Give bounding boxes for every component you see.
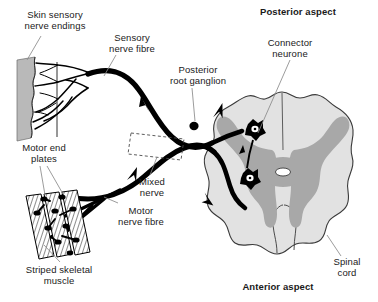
label-sensory-nerve-fibre: Sensory nerve fibre xyxy=(92,32,172,54)
central-canal xyxy=(276,168,291,176)
leader-ganglion xyxy=(192,88,195,121)
label-connector-neurone: Connector neurone xyxy=(252,37,328,59)
leader-skin-endings xyxy=(27,36,41,60)
posterior-root-ganglion xyxy=(189,122,198,130)
label-motor-nerve-fibre: Motor nerve fibre xyxy=(100,205,182,227)
label-mixed-nerve: Mixed nerve xyxy=(124,176,180,198)
label-spinal-cord: Spinal cord xyxy=(320,256,374,278)
leader-spinal-cord xyxy=(327,235,341,256)
leader-end-plates-a xyxy=(40,166,45,195)
label-posterior-root-ganglion: Posterior root ganglion xyxy=(152,64,244,86)
leader-end-plates-b xyxy=(47,166,63,194)
label-skin-sensory-nerve-endings: Skin sensory nerve endings xyxy=(6,9,104,31)
skin-region xyxy=(17,57,90,141)
label-anterior-aspect: Anterior aspect xyxy=(218,281,338,292)
label-motor-end-plates: Motor end plates xyxy=(6,142,82,164)
label-striped-skeletal-muscle: Striped skeletal muscle xyxy=(4,264,114,286)
label-posterior-aspect: Posterior aspect xyxy=(238,6,358,17)
